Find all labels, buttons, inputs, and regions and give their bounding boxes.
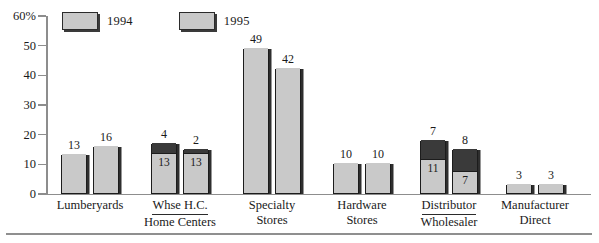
y-axis-tick-label: 0 bbox=[2, 188, 36, 201]
category-label: Whse H.C.Home Centers bbox=[131, 198, 229, 229]
bar-body bbox=[93, 147, 119, 194]
bar-total-label: 3 bbox=[534, 169, 568, 181]
category-label: Lumberyards bbox=[41, 198, 139, 213]
y-axis-tick-labels: 60%50403020100 bbox=[0, 0, 36, 243]
bar-total-label: 10 bbox=[361, 148, 395, 160]
bar-segment: 7 bbox=[453, 172, 477, 193]
y-axis-tick-label: 10 bbox=[2, 158, 36, 171]
bar-segment-value-label: 13 bbox=[184, 157, 208, 169]
y-axis-tick-label: 20 bbox=[2, 129, 36, 142]
bar-body bbox=[365, 164, 391, 194]
bar-chart: 1994 1995 60%50403020100 131613413249421… bbox=[0, 0, 599, 243]
bar-total-label: 49 bbox=[239, 33, 273, 45]
bar-group: 33 bbox=[506, 16, 564, 194]
category-label: SpecialtyStores bbox=[223, 198, 321, 227]
bar-total-label: 3 bbox=[502, 169, 536, 181]
category-label-line1: Specialty bbox=[223, 198, 321, 213]
y-axis-tick-label: 60% bbox=[2, 10, 36, 23]
y-axis-tick bbox=[38, 164, 46, 166]
category-label-line1: Lumberyards bbox=[41, 198, 139, 213]
bar-segment bbox=[276, 68, 300, 193]
y-axis-tick-label: 40 bbox=[2, 69, 36, 82]
bar-total-label: 8 bbox=[448, 134, 482, 146]
category-label-line2: Stores bbox=[223, 213, 321, 228]
bar-total-label: 16 bbox=[89, 131, 123, 143]
bar-segment bbox=[62, 154, 86, 193]
y-axis-tick-label: 30 bbox=[2, 99, 36, 112]
bar-body bbox=[275, 69, 301, 194]
bar-body bbox=[243, 49, 269, 194]
category-label: DistributorWholesaler bbox=[400, 198, 498, 229]
y-axis-tick-label: 50 bbox=[2, 40, 36, 53]
bar-total-label: 10 bbox=[329, 148, 363, 160]
category-label: ManufacturerDirect bbox=[486, 198, 584, 227]
bar-total-label: 4 bbox=[147, 128, 181, 140]
bar-segment: 13 bbox=[184, 154, 208, 193]
bar-body: 7 bbox=[452, 150, 478, 195]
y-axis-tick bbox=[38, 134, 46, 136]
bar-segment: 11 bbox=[421, 160, 445, 193]
bar-segment bbox=[421, 140, 445, 161]
bar-total-label: 2 bbox=[179, 134, 213, 146]
bar-body bbox=[333, 164, 359, 194]
bar-body bbox=[61, 155, 87, 194]
category-label-line2: Wholesaler bbox=[400, 215, 498, 230]
bar-body: 11 bbox=[420, 141, 446, 194]
category-label-line1: Whse H.C. bbox=[152, 198, 207, 215]
category-label-line1: Hardware bbox=[313, 198, 411, 213]
y-axis-tick bbox=[38, 15, 46, 17]
bar-group: 11778 bbox=[420, 16, 478, 194]
bottom-rule bbox=[6, 233, 592, 235]
bar-group: 1010 bbox=[333, 16, 391, 194]
y-axis-tick bbox=[38, 75, 46, 77]
category-label-line1: Distributor bbox=[422, 198, 477, 215]
bar-segment bbox=[152, 143, 176, 155]
bar-group: 134132 bbox=[151, 16, 209, 194]
x-axis-baseline bbox=[46, 194, 591, 196]
plot-area: 1316134132494210101177833 bbox=[47, 16, 592, 194]
bar-segment bbox=[453, 149, 477, 173]
bar-segment-value-label: 11 bbox=[421, 163, 445, 175]
category-label-line2: Home Centers bbox=[131, 215, 229, 230]
category-label-line2: Direct bbox=[486, 213, 584, 228]
bar-segment bbox=[334, 163, 358, 193]
bar-segment bbox=[507, 184, 531, 193]
bar-total-label: 13 bbox=[57, 139, 91, 151]
y-axis-tick bbox=[38, 104, 46, 106]
bar-body: 13 bbox=[183, 150, 209, 195]
category-label-line2: Stores bbox=[313, 213, 411, 228]
bar-segment bbox=[539, 184, 563, 193]
bar-segment bbox=[244, 48, 268, 193]
bar-total-label: 42 bbox=[271, 53, 305, 65]
bar-segment-value-label: 13 bbox=[152, 157, 176, 169]
bar-segment-value-label: 7 bbox=[453, 175, 477, 187]
bar-group: 1316 bbox=[61, 16, 119, 194]
bar-segment bbox=[184, 149, 208, 155]
bar-group: 4942 bbox=[243, 16, 301, 194]
category-label-line1: Manufacturer bbox=[486, 198, 584, 213]
bar-total-label: 7 bbox=[416, 125, 450, 137]
bar-body: 13 bbox=[151, 144, 177, 194]
bar-segment: 13 bbox=[152, 154, 176, 193]
bar-segment bbox=[366, 163, 390, 193]
y-axis-tick bbox=[38, 45, 46, 47]
bar-segment bbox=[94, 146, 118, 193]
category-label: HardwareStores bbox=[313, 198, 411, 227]
y-axis-tick bbox=[38, 193, 46, 195]
